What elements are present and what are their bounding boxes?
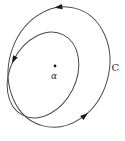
- winding-curve-diagram: α C: [0, 0, 125, 141]
- outer-loop-curve: [0, 0, 124, 139]
- inner-loop-curve: [0, 20, 93, 130]
- diagram-canvas: α C: [0, 0, 125, 141]
- alpha-point-dot: [54, 65, 57, 68]
- arrow-upright-bottom-icon: [80, 113, 88, 120]
- curve-c-label: C: [112, 62, 120, 73]
- arrow-left-top-icon: [54, 4, 62, 9]
- alpha-point-label: α: [51, 71, 57, 81]
- arrow-down-inner-left-icon: [12, 55, 18, 63]
